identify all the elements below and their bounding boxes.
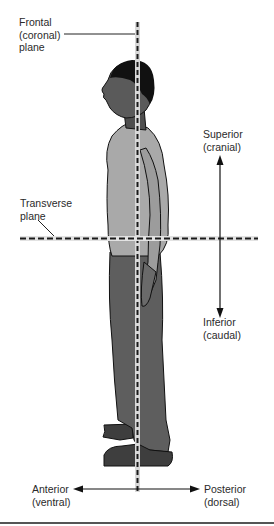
- bottom-divider: [0, 522, 274, 524]
- inferior-label: Inferior (caudal): [203, 316, 241, 341]
- arrow-left-icon: [73, 486, 83, 493]
- posterior-label: Posterior (dorsal): [204, 483, 246, 508]
- frontal-plane-line: [135, 22, 140, 492]
- anatomy-illustration: [0, 0, 274, 526]
- transverse-leader-line: [38, 220, 54, 236]
- superior-label: Superior (cranial): [203, 128, 243, 153]
- arrow-up-icon: [217, 155, 224, 165]
- frontal-plane-label: Frontal (coronal) plane: [19, 16, 60, 54]
- anterior-label: Anterior (ventral): [32, 483, 71, 508]
- transverse-plane-label: Transverse plane: [20, 197, 72, 222]
- arrow-right-icon: [190, 486, 200, 493]
- transverse-plane-line: [20, 236, 258, 241]
